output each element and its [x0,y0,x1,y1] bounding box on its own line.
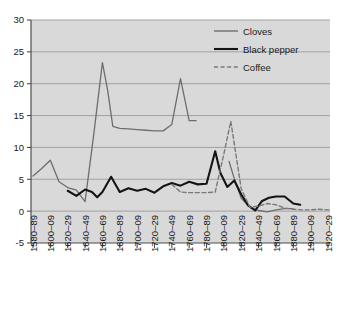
y-axis-label: 0 [19,206,24,217]
x-axis-label: 1700–09 [132,215,143,252]
y-axis-label: 5 [19,174,24,185]
chart-canvas: -50510152025301580–891600–091620–291640–… [0,0,348,317]
x-axis-label: 1640–49 [80,215,91,252]
x-axis-label: 1880–89 [288,215,299,252]
legend-label: Black pepper [243,44,298,55]
line-chart: -50510152025301580–891600–091620–291640–… [0,0,348,317]
x-axis-label: 1680–89 [114,215,125,252]
legend-label: Cloves [243,26,272,37]
y-axis-label: 25 [13,46,24,57]
y-axis-label: 20 [13,78,24,89]
y-axis-label: -5 [16,237,24,248]
x-axis-label: 1580–89 [28,215,39,252]
y-axis-label: 30 [13,14,24,25]
x-axis-label: 1720–29 [149,215,160,252]
x-axis-label: 1840–49 [253,215,264,252]
x-axis-label: 1860–69 [271,215,282,252]
x-axis-label: 1920–29 [323,215,334,252]
x-axis-label: 1620–29 [62,215,73,252]
x-axis-label: 1780–89 [201,215,212,252]
x-axis-label: 1600–09 [45,215,56,252]
x-axis-label: 1760–69 [184,215,195,252]
x-axis-label: 1900–09 [305,215,316,252]
legend-label: Coffee [243,62,271,73]
x-axis-label: 1740–49 [166,215,177,252]
x-axis-label: 1820–29 [236,215,247,252]
y-axis-label: 10 [13,142,24,153]
y-axis-ticks: -5051015202530 [13,14,31,248]
x-axis-label: 1800–09 [218,215,229,252]
x-axis-label: 1660–69 [97,215,108,252]
y-axis-label: 15 [13,110,24,121]
